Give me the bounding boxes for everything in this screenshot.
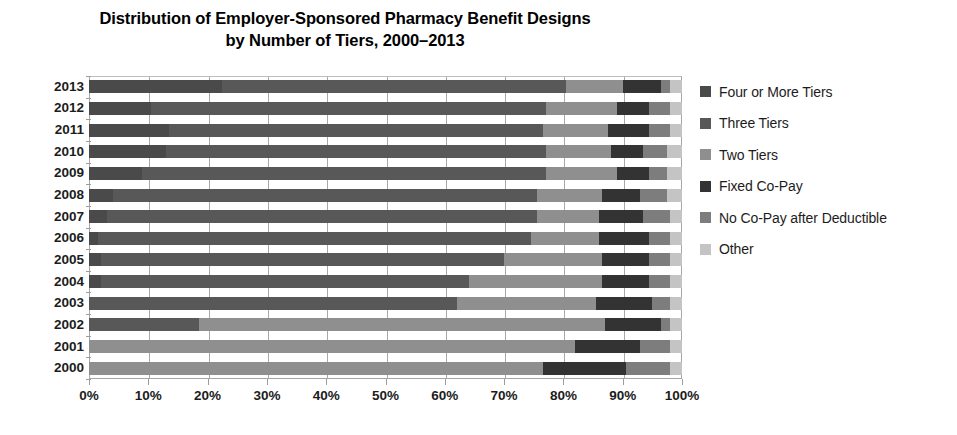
y-axis-label-2003: 2003 [34, 296, 84, 309]
bar-segment [151, 102, 545, 115]
bar-segment [670, 253, 682, 266]
bar-segment [605, 318, 661, 331]
bar-segment [89, 102, 151, 115]
bar-segment [222, 80, 566, 93]
y-axis-tick [86, 228, 91, 229]
y-axis-label-2005: 2005 [34, 253, 84, 266]
bar-segment [89, 297, 457, 310]
bar-segment [504, 253, 602, 266]
bar-segment [670, 210, 682, 223]
legend-swatch-icon [700, 181, 711, 192]
legend-swatch-icon [700, 118, 711, 129]
x-axis-label-20%: 20% [178, 388, 238, 403]
bar-segment [602, 253, 649, 266]
y-axis-tick [86, 98, 91, 99]
bar-segment [617, 167, 650, 180]
bar-segment [101, 253, 504, 266]
y-axis-label-2012: 2012 [34, 101, 84, 114]
bar-segment [640, 340, 670, 353]
y-axis-tick [86, 206, 91, 207]
legend-item[interactable]: Three Tiers [700, 108, 950, 140]
bar-segment [142, 167, 545, 180]
y-axis-label-2004: 2004 [34, 275, 84, 288]
x-axis-tick [623, 379, 624, 385]
bar-segment [652, 297, 670, 310]
legend-swatch-icon [700, 244, 711, 255]
x-axis-tick [208, 379, 209, 385]
bar-segment [89, 340, 575, 353]
legend-swatch-icon [700, 149, 711, 160]
bar-segment [649, 167, 667, 180]
y-axis-tick [86, 314, 91, 315]
chart-title-line-1: Distribution of Employer-Sponsored Pharm… [0, 8, 690, 30]
bar-segment [596, 297, 652, 310]
y-axis-tick [86, 336, 91, 337]
bar-segment [667, 145, 682, 158]
legend-item-label: Two Tiers [719, 147, 778, 163]
legend-item[interactable]: No Co-Pay after Deductible [700, 202, 950, 234]
y-axis-tick [86, 141, 91, 142]
bar-row [89, 253, 682, 266]
bars-layer [89, 76, 682, 379]
bar-segment [531, 232, 599, 245]
bar-segment [543, 124, 608, 137]
legend-item[interactable]: Two Tiers [700, 139, 950, 171]
x-axis-label-10%: 10% [118, 388, 178, 403]
bar-segment [89, 124, 169, 137]
bar-segment [661, 318, 670, 331]
y-axis: 2013201220112010200920082007200620052004… [26, 76, 84, 379]
bar-segment [617, 102, 650, 115]
bar-segment [623, 80, 662, 93]
bar-segment [89, 253, 101, 266]
y-axis-tick [86, 292, 91, 293]
legend-item[interactable]: Four or More Tiers [700, 76, 950, 108]
bar-segment [575, 340, 640, 353]
legend-item-label: No Co-Pay after Deductible [719, 210, 887, 226]
bar-segment [169, 124, 543, 137]
bar-segment [670, 362, 682, 375]
legend-item[interactable]: Other [700, 234, 950, 266]
bar-segment [89, 210, 107, 223]
bar-segment [649, 232, 670, 245]
bar-segment [566, 80, 622, 93]
y-axis-tick [86, 119, 91, 120]
bar-segment [649, 102, 670, 115]
y-axis-label-2010: 2010 [34, 145, 84, 158]
bar-segment [608, 124, 650, 137]
bar-segment [640, 189, 667, 202]
bar-segment [649, 275, 670, 288]
bar-segment [89, 362, 543, 375]
bar-segment [166, 145, 546, 158]
y-axis-label-2001: 2001 [34, 340, 84, 353]
x-axis-tick [267, 379, 268, 385]
legend-item-label: Three Tiers [719, 115, 789, 131]
bar-segment [107, 210, 537, 223]
bar-segment [546, 102, 617, 115]
bar-segment [670, 275, 682, 288]
bar-segment [89, 318, 199, 331]
bar-row [89, 80, 682, 93]
x-axis: 0%10%20%30%40%50%60%70%80%90%100% [89, 379, 682, 419]
bar-segment [670, 297, 682, 310]
bar-row [89, 210, 682, 223]
bar-segment [537, 210, 599, 223]
chart-title: Distribution of Employer-Sponsored Pharm… [0, 8, 690, 52]
bar-segment [670, 124, 682, 137]
chart-legend: Four or More TiersThree TiersTwo TiersFi… [700, 76, 950, 265]
bar-segment [670, 340, 682, 353]
bar-segment [98, 232, 531, 245]
bar-segment [199, 318, 605, 331]
bar-segment [649, 253, 670, 266]
legend-swatch-icon [700, 86, 711, 97]
y-axis-tick [86, 163, 91, 164]
bar-segment [670, 80, 682, 93]
legend-item-label: Four or More Tiers [719, 84, 832, 100]
x-axis-tick [445, 379, 446, 385]
bar-row [89, 362, 682, 375]
bar-segment [89, 145, 166, 158]
bar-row [89, 275, 682, 288]
legend-item[interactable]: Fixed Co-Pay [700, 171, 950, 203]
y-axis-label-2002: 2002 [34, 318, 84, 331]
bar-segment [670, 102, 682, 115]
bar-row [89, 297, 682, 310]
